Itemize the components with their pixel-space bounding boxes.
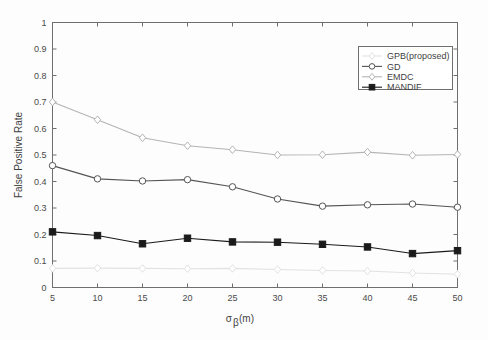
legend-label: GPB(proposed) — [387, 51, 450, 61]
x-axis-title-symbol: σ — [226, 313, 233, 324]
x-tick-label: 50 — [452, 293, 462, 303]
data-point-marker — [274, 239, 280, 245]
x-tick-label: 25 — [227, 293, 237, 303]
x-tick-label: 5 — [50, 293, 55, 303]
y-tick-label: 0.9 — [34, 44, 47, 54]
y-tick-label: 1 — [41, 18, 46, 28]
data-point-marker — [49, 229, 55, 235]
data-point-marker — [409, 201, 415, 207]
data-point-marker — [454, 247, 460, 253]
data-point-marker — [274, 196, 280, 202]
data-point-marker — [49, 162, 55, 168]
data-point-marker — [274, 266, 280, 274]
data-point-marker — [319, 241, 325, 247]
series-mandif — [49, 229, 460, 257]
data-point-marker — [454, 151, 460, 159]
x-tick-label: 10 — [92, 293, 102, 303]
x-axis-title-unit: (m) — [239, 313, 254, 324]
series-gpb-proposed — [49, 264, 460, 278]
series-line — [53, 166, 458, 208]
legend-label: MANDIF — [387, 82, 422, 92]
data-point-marker — [229, 184, 235, 190]
legend-label: EMDC — [387, 72, 414, 82]
data-point-marker — [94, 264, 100, 272]
x-axis-tick-labels: 5101520253035404550 — [50, 293, 463, 303]
data-point-marker — [274, 151, 280, 159]
data-point-marker — [49, 265, 55, 273]
data-point-marker — [94, 232, 100, 238]
y-axis-title: False Positive Rate — [13, 111, 24, 198]
x-tick-label: 30 — [272, 293, 282, 303]
y-tick-label: 0.7 — [34, 97, 47, 107]
data-point-marker — [454, 270, 460, 278]
series-line — [53, 232, 458, 254]
y-tick-label: 0.8 — [34, 71, 47, 81]
data-point-marker — [184, 142, 190, 150]
y-tick-label: 0.1 — [34, 256, 47, 266]
series-line — [53, 268, 458, 274]
data-point-marker — [229, 265, 235, 273]
legend-label: GD — [387, 62, 401, 72]
data-point-marker — [409, 151, 415, 159]
data-point-marker — [319, 267, 325, 275]
data-point-marker — [319, 151, 325, 159]
data-point-marker — [49, 98, 55, 106]
data-point-marker — [409, 250, 415, 256]
y-tick-label: 0 — [41, 283, 46, 293]
data-point-marker — [369, 84, 375, 90]
y-tick-label: 0.4 — [34, 177, 47, 187]
data-point-marker — [94, 176, 100, 182]
y-tick-label: 0.5 — [34, 150, 47, 160]
data-point-marker — [364, 267, 370, 275]
data-point-marker — [184, 265, 190, 273]
data-point-marker — [229, 146, 235, 154]
data-point-marker — [319, 203, 325, 209]
data-point-marker — [139, 241, 145, 247]
chart-legend: GPB(proposed)GDEMDCMANDIF — [359, 47, 453, 93]
series-line — [53, 102, 458, 155]
data-point-marker — [364, 202, 370, 208]
x-tick-label: 20 — [182, 293, 192, 303]
x-tick-label: 40 — [362, 293, 372, 303]
series-emdc — [49, 98, 460, 159]
y-tick-label: 0.2 — [34, 230, 47, 240]
chart-figure: 00.10.20.30.40.50.60.70.80.91 5101520253… — [0, 0, 488, 340]
data-point-marker — [184, 235, 190, 241]
data-point-marker — [229, 239, 235, 245]
x-axis-title: σ β (m) — [226, 313, 254, 328]
y-tick-label: 0.3 — [34, 203, 47, 213]
data-point-marker — [94, 116, 100, 124]
x-tick-label: 15 — [137, 293, 147, 303]
x-tick-label: 35 — [317, 293, 327, 303]
data-point-marker — [139, 178, 145, 184]
data-point-marker — [139, 134, 145, 142]
data-point-marker — [369, 64, 375, 70]
y-axis-tick-labels: 00.10.20.30.40.50.60.70.80.91 — [34, 18, 47, 293]
x-tick-label: 45 — [407, 293, 417, 303]
data-point-marker — [364, 244, 370, 250]
series-gd — [49, 162, 460, 210]
y-tick-label: 0.6 — [34, 124, 47, 134]
data-point-marker — [454, 204, 460, 210]
data-series-layer — [49, 98, 460, 278]
data-point-marker — [409, 269, 415, 277]
data-point-marker — [184, 176, 190, 182]
data-point-marker — [139, 265, 145, 273]
line-chart: 00.10.20.30.40.50.60.70.80.91 5101520253… — [0, 0, 488, 340]
data-point-marker — [364, 148, 370, 156]
